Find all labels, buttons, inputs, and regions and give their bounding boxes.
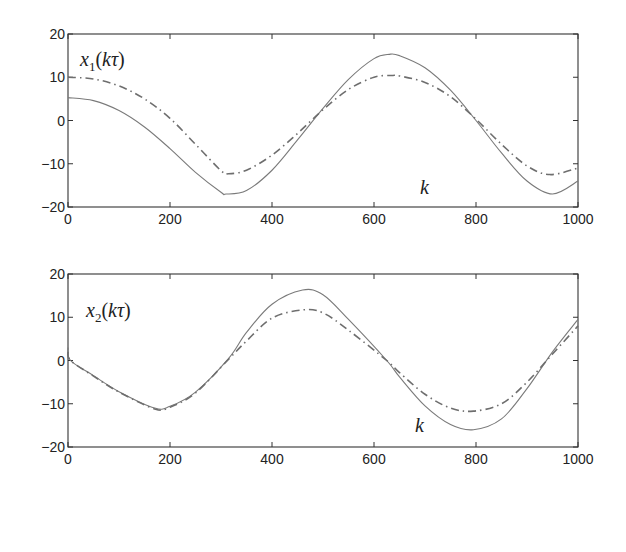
figure: 0200400600800100020100−10−20 x1(kτ) k 02…: [0, 0, 626, 552]
x-tick-label: 400: [260, 211, 284, 227]
y-tick-label: −20: [41, 199, 65, 215]
x-annotation-k: k: [415, 414, 425, 436]
x-tick-label: 600: [362, 211, 386, 227]
axis-ticks: 0200400600800100020100−10−20: [41, 266, 594, 467]
x-tick-label: 400: [260, 451, 284, 467]
y-tick-label: 0: [57, 353, 65, 369]
y-tick-label: −10: [41, 396, 65, 412]
y-tick-label: 20: [49, 266, 65, 282]
y-annotation-x1: x1(kτ): [79, 48, 125, 74]
x-tick-label: 200: [158, 211, 182, 227]
series-dash-dot: [68, 75, 578, 174]
series-dash-dot: [68, 310, 578, 412]
x-tick-label: 1000: [562, 211, 593, 227]
y-tick-label: 0: [57, 113, 65, 129]
y-tick-label: −10: [41, 156, 65, 172]
y-tick-label: 10: [49, 309, 65, 325]
y-tick-label: 20: [49, 26, 65, 42]
curves: [68, 54, 578, 195]
x-tick-label: 1000: [562, 451, 593, 467]
y-tick-label: 10: [49, 69, 65, 85]
x-tick-label: 200: [158, 451, 182, 467]
x-tick-label: 600: [362, 451, 386, 467]
curves: [68, 289, 578, 430]
axes-box: [68, 274, 578, 447]
series-solid: [68, 289, 578, 430]
x-tick-label: 800: [464, 211, 488, 227]
x-tick-label: 0: [64, 451, 72, 467]
subplot-x1: 0200400600800100020100−10−20 x1(kτ) k: [41, 26, 594, 227]
x-tick-label: 0: [64, 211, 72, 227]
subplot-x2: 0200400600800100020100−10−20 x2(kτ) k: [41, 266, 594, 467]
x-annotation-k: k: [420, 176, 430, 198]
x-tick-label: 800: [464, 451, 488, 467]
y-annotation-x2: x2(kτ): [85, 299, 131, 325]
series-solid: [68, 54, 578, 195]
axes-frame: [68, 274, 578, 447]
y-tick-label: −20: [41, 439, 65, 455]
axes-frame: [68, 34, 578, 207]
axes-box: [68, 34, 578, 207]
